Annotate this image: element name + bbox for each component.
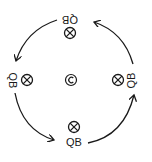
marker-top-circled-x-icon (65, 28, 76, 39)
arrow-right-to-top (94, 22, 133, 64)
marker-left-circled-x-icon (22, 75, 33, 86)
rotation-diagram: QB QB QB QB (0, 0, 152, 162)
label-right: QB (126, 73, 137, 89)
center-copyright-icon (66, 75, 77, 86)
label-top: QB (62, 14, 78, 25)
marker-right-circled-x-icon (113, 75, 124, 86)
marker-bottom-circled-x-icon (69, 122, 80, 133)
arrow-bottom-to-right (88, 95, 134, 143)
arrow-top-to-left (16, 20, 57, 61)
label-bottom: QB (66, 137, 82, 148)
arrow-left-to-bottom (15, 93, 54, 140)
label-left: QB (7, 73, 18, 89)
